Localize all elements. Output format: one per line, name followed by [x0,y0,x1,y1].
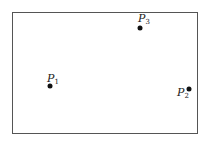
point-p3-sub: 3 [145,18,149,26]
point-p3-label: P3 [138,13,150,28]
point-p1-label: P1 [47,73,59,88]
diagram-frame [12,12,198,134]
point-p1-sub: 1 [54,78,58,86]
point-p2-label: P2 [177,87,189,102]
point-p2-sub: 2 [184,92,188,100]
